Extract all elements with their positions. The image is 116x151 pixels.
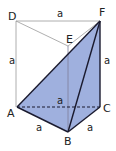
edge-label-BC: a: [87, 122, 93, 133]
vertex-label-F: F: [99, 6, 105, 19]
vertex-label-A: A: [7, 107, 15, 120]
prism-diagram: D E F A B C a a a a a a: [0, 0, 116, 151]
edge-label-AD: a: [9, 55, 15, 66]
edge-DE: [16, 21, 68, 46]
vertex-label-B: B: [64, 135, 72, 148]
vertex-label-E: E: [66, 33, 73, 46]
prism-svg: D E F A B C a a a a a a: [0, 0, 116, 151]
edge-label-CF: a: [104, 55, 110, 66]
edge-label-AB: a: [36, 122, 42, 133]
vertex-label-C: C: [103, 102, 111, 115]
shaded-section: [17, 21, 100, 132]
vertex-label-D: D: [8, 10, 16, 23]
edge-label-DF: a: [57, 8, 63, 19]
edge-label-AC: a: [57, 95, 63, 106]
